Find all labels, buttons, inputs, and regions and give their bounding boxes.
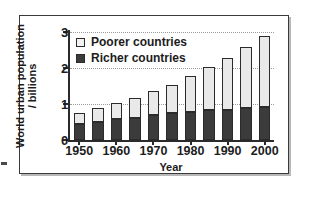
- bar-segment-richer: [74, 124, 85, 140]
- bar-segment-richer: [92, 122, 103, 140]
- x-tick-label: 1990: [214, 145, 242, 158]
- bar-segment-poorer: [203, 67, 214, 110]
- bar-1995: [240, 47, 251, 140]
- legend-swatch-poorer-icon: [76, 38, 85, 47]
- x-tick-label: 1980: [177, 145, 205, 158]
- y-axis-title-line: World urban population: [14, 24, 26, 148]
- x-tick-label: 1950: [65, 145, 93, 158]
- bar-segment-poorer: [240, 47, 251, 107]
- bar-2000: [259, 36, 270, 140]
- gridline: [70, 32, 274, 34]
- bar-segment-richer: [240, 108, 251, 140]
- bar-segment-richer: [166, 113, 177, 140]
- bar-segment-richer: [203, 110, 214, 140]
- bar-segment-poorer: [129, 98, 140, 117]
- bar-segment-poorer: [74, 113, 85, 123]
- chart-legend: Poorer countriesRicher countries: [76, 36, 187, 68]
- x-tick-label: 2000: [251, 145, 279, 158]
- legend-item: Richer countries: [76, 52, 187, 64]
- x-axis-line: [68, 140, 274, 142]
- bar-1970: [148, 91, 159, 140]
- bar-segment-poorer: [222, 58, 233, 110]
- y-axis-title-line: / billions: [26, 24, 38, 148]
- legend-label: Richer countries: [91, 52, 186, 64]
- legend-swatch-richer-icon: [76, 54, 85, 63]
- bar-1990: [222, 58, 233, 140]
- bar-1980: [185, 76, 196, 140]
- bar-1985: [203, 67, 214, 140]
- bar-1975: [166, 85, 177, 140]
- bar-segment-richer: [129, 118, 140, 140]
- legend-label: Poorer countries: [91, 36, 187, 48]
- x-tick-label: 1970: [140, 145, 168, 158]
- bar-segment-poorer: [166, 85, 177, 113]
- bar-segment-richer: [259, 107, 270, 140]
- x-tick-label: 1960: [102, 145, 130, 158]
- bar-segment-poorer: [92, 108, 103, 121]
- bar-chart: 0123 195019601970198019902000 World urba…: [0, 0, 318, 201]
- bar-segment-poorer: [259, 36, 270, 107]
- bar-segment-richer: [222, 110, 233, 140]
- bar-segment-poorer: [148, 91, 159, 115]
- y-axis-title: World urban population/ billions: [14, 24, 39, 148]
- legend-item: Poorer countries: [76, 36, 187, 48]
- x-axis-title: Year: [159, 161, 182, 173]
- bar-segment-poorer: [111, 103, 122, 119]
- bar-1960: [111, 103, 122, 140]
- y-axis-line: [68, 30, 70, 142]
- bar-1965: [129, 98, 140, 140]
- bar-segment-richer: [185, 112, 196, 140]
- bar-segment-richer: [111, 119, 122, 140]
- bar-1950: [74, 113, 85, 140]
- bar-1955: [92, 108, 103, 140]
- bar-segment-richer: [148, 115, 159, 140]
- bar-segment-poorer: [185, 76, 196, 112]
